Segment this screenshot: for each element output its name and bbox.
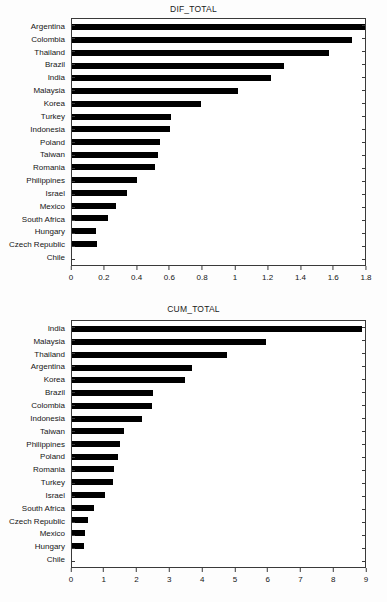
y-tick-mark-right bbox=[362, 366, 366, 367]
y-tick-mark-right bbox=[362, 444, 366, 445]
y-axis-label: Malaysia bbox=[0, 84, 69, 97]
bar-row bbox=[72, 527, 365, 540]
bar bbox=[72, 466, 114, 472]
tick-mark bbox=[169, 266, 170, 270]
bar bbox=[72, 139, 160, 145]
x-tick: 8 bbox=[331, 568, 335, 584]
tick-mark bbox=[136, 568, 137, 572]
bar bbox=[72, 101, 201, 107]
bar bbox=[72, 203, 116, 209]
x-tick: 5 bbox=[233, 568, 237, 584]
y-axis-label: Turkey bbox=[0, 476, 69, 489]
y-tick-mark-right bbox=[362, 470, 366, 471]
bar bbox=[72, 326, 362, 332]
bar-row bbox=[72, 323, 365, 336]
y-tick-mark-left bbox=[71, 155, 75, 156]
bar bbox=[72, 390, 153, 396]
bar bbox=[72, 177, 137, 183]
x-tick: 0.6 bbox=[164, 266, 175, 282]
bar bbox=[72, 114, 171, 120]
y-tick-mark-right bbox=[362, 535, 366, 536]
y-tick-mark-right bbox=[362, 129, 366, 130]
tick-label: 7 bbox=[298, 575, 302, 584]
bar-row bbox=[72, 539, 365, 552]
bar bbox=[72, 152, 158, 158]
chart-title-dif-total: DIF_TOTAL bbox=[0, 4, 387, 14]
y-axis-label: Thailand bbox=[0, 348, 69, 361]
x-tick: 0.8 bbox=[197, 266, 208, 282]
y-tick-mark-right bbox=[362, 181, 366, 182]
bar-row bbox=[72, 85, 365, 98]
y-tick-mark-left bbox=[71, 103, 75, 104]
tick-label: 9 bbox=[364, 575, 368, 584]
y-tick-mark-left bbox=[71, 379, 75, 380]
bar-row bbox=[72, 476, 365, 489]
bar-row bbox=[72, 489, 365, 502]
y-tick-mark-left bbox=[71, 418, 75, 419]
bar bbox=[72, 24, 365, 30]
y-tick-mark-right bbox=[362, 522, 366, 523]
y-tick-mark-right bbox=[362, 340, 366, 341]
tick-label: 5 bbox=[233, 575, 237, 584]
y-axis-label: Israel bbox=[0, 187, 69, 200]
tick-mark bbox=[103, 568, 104, 572]
y-tick-mark-right bbox=[362, 405, 366, 406]
y-axis-label: Israel bbox=[0, 489, 69, 502]
bar-row bbox=[72, 361, 365, 374]
y-tick-mark-left bbox=[71, 51, 75, 52]
tick-mark bbox=[169, 568, 170, 572]
tick-label: 8 bbox=[331, 575, 335, 584]
y-tick-mark-right bbox=[362, 509, 366, 510]
bar bbox=[72, 50, 329, 56]
tick-label: 2 bbox=[134, 575, 138, 584]
x-tick: 1.6 bbox=[328, 266, 339, 282]
plot-area-cum-total bbox=[71, 320, 366, 568]
y-tick-mark-right bbox=[362, 77, 366, 78]
tick-label: 6 bbox=[265, 575, 269, 584]
x-tick: 3 bbox=[167, 568, 171, 584]
y-tick-mark-left bbox=[71, 353, 75, 354]
y-axis-label: Thailand bbox=[0, 46, 69, 59]
y-tick-mark-right bbox=[362, 246, 366, 247]
y-tick-mark-right bbox=[362, 457, 366, 458]
y-tick-mark-left bbox=[71, 496, 75, 497]
bar-row bbox=[72, 387, 365, 400]
tick-label: 1 bbox=[233, 273, 237, 282]
y-axis-label: Romania bbox=[0, 161, 69, 174]
bar bbox=[72, 428, 124, 434]
y-axis-labels-dif-total: ArgentinaColombiaThailandBrazilIndiaMala… bbox=[0, 18, 69, 266]
bar bbox=[72, 215, 108, 221]
y-tick-mark-left bbox=[71, 392, 75, 393]
y-axis-label: Argentina bbox=[0, 20, 69, 33]
y-tick-mark-left bbox=[71, 90, 75, 91]
x-tick: 0.2 bbox=[98, 266, 109, 282]
x-tick: 0 bbox=[69, 266, 73, 282]
bar bbox=[72, 377, 185, 383]
y-axis-label: Brazil bbox=[0, 386, 69, 399]
y-tick-mark-right bbox=[362, 116, 366, 117]
y-axis-label: Romania bbox=[0, 463, 69, 476]
bar bbox=[72, 454, 118, 460]
bar-row bbox=[72, 450, 365, 463]
x-tick: 1.2 bbox=[262, 266, 273, 282]
y-axis-label: Poland bbox=[0, 450, 69, 463]
tick-mark bbox=[333, 266, 334, 270]
y-tick-mark-right bbox=[362, 327, 366, 328]
bar bbox=[72, 505, 94, 511]
bar-row bbox=[72, 148, 365, 161]
bar bbox=[72, 126, 170, 132]
bar bbox=[72, 164, 155, 170]
y-axis-label: Philippines bbox=[0, 174, 69, 187]
y-tick-mark-right bbox=[362, 207, 366, 208]
tick-label: 1.8 bbox=[360, 273, 371, 282]
tick-mark bbox=[267, 568, 268, 572]
bar-row bbox=[72, 237, 365, 250]
bar bbox=[72, 441, 120, 447]
y-tick-mark-left bbox=[71, 181, 75, 182]
bar bbox=[72, 63, 284, 69]
tick-label: 1.4 bbox=[295, 273, 306, 282]
x-tick: 4 bbox=[200, 568, 204, 584]
y-tick-mark-right bbox=[362, 431, 366, 432]
y-tick-mark-right bbox=[362, 220, 366, 221]
y-tick-mark-left bbox=[71, 168, 75, 169]
